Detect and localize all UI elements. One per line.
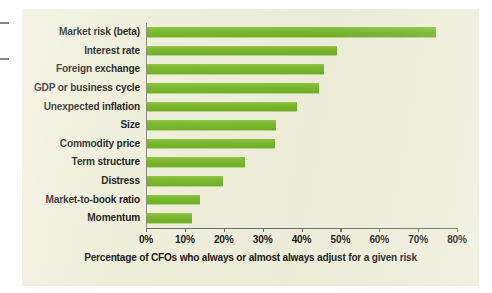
category-label: Market risk (beta): [22, 27, 146, 37]
bar-track: [146, 116, 479, 135]
y-axis-line: [146, 23, 147, 228]
scan-artifact-mark: [0, 22, 9, 24]
x-axis-tick-label: 70%: [408, 234, 428, 245]
bar: [146, 195, 200, 205]
bar-row: Distress: [22, 172, 479, 191]
plot-area: Market risk (beta)Interest rateForeign e…: [22, 9, 479, 286]
bar-track: [146, 153, 479, 172]
bar-rows: Market risk (beta)Interest rateForeign e…: [22, 23, 479, 228]
bar-track: [146, 135, 479, 154]
bar-row: Market-to-book ratio: [22, 190, 479, 209]
x-axis-title: Percentage of CFOs who always or almost …: [22, 252, 479, 263]
bar-track: [146, 42, 479, 61]
category-label: Unexpected inflation: [22, 102, 146, 112]
x-axis-tick-label: 20%: [214, 234, 234, 245]
category-label: Market-to-book ratio: [22, 195, 146, 205]
x-axis-tick: [340, 228, 341, 232]
bar-track: [146, 60, 479, 79]
bar-track: [146, 172, 479, 191]
x-axis-tick: [418, 228, 419, 232]
x-axis-tick-label: 30%: [253, 234, 273, 245]
bar: [146, 28, 436, 38]
bar: [146, 46, 337, 56]
bar-track: [146, 190, 479, 209]
category-label: GDP or business cycle: [22, 83, 146, 93]
category-label: Commodity price: [22, 139, 146, 149]
bar-row: Size: [22, 116, 479, 135]
bar: [146, 121, 276, 131]
bar: [146, 176, 223, 186]
category-label: Term structure: [22, 157, 146, 167]
x-axis-tick: [185, 228, 186, 232]
bar: [146, 65, 324, 75]
bar-track: [146, 97, 479, 116]
chart-figure-panel: Market risk (beta)Interest rateForeign e…: [22, 9, 479, 286]
bar-row: GDP or business cycle: [22, 79, 479, 98]
x-axis-tick: [457, 228, 458, 232]
bar: [146, 213, 192, 223]
scan-artifact-mark: [0, 58, 9, 60]
x-axis-tick: [146, 228, 147, 232]
x-axis-tick-label: 60%: [369, 234, 389, 245]
bar-track: [146, 79, 479, 98]
category-label: Interest rate: [22, 46, 146, 56]
x-axis-tick: [379, 228, 380, 232]
bar-row: Term structure: [22, 153, 479, 172]
bar-track: [146, 209, 479, 228]
category-label: Size: [22, 120, 146, 130]
x-axis-tick: [302, 228, 303, 232]
bar-track: [146, 23, 479, 42]
x-axis-tick: [263, 228, 264, 232]
category-label: Foreign exchange: [22, 64, 146, 74]
bar-row: Market risk (beta): [22, 23, 479, 42]
x-axis-tick-label: 80%: [447, 234, 467, 245]
bar-row: Foreign exchange: [22, 60, 479, 79]
bar-row: Interest rate: [22, 42, 479, 61]
bar: [146, 102, 297, 112]
x-axis-tick-label: 0%: [139, 234, 153, 245]
x-axis-tick-label: 50%: [331, 234, 351, 245]
x-axis-tick-label: 10%: [175, 234, 195, 245]
bar: [146, 83, 319, 93]
x-axis-tick-label: 40%: [292, 234, 312, 245]
category-label: Distress: [22, 176, 146, 186]
bar: [146, 158, 245, 168]
x-axis-tick: [224, 228, 225, 232]
bar-row: Commodity price: [22, 135, 479, 154]
bar: [146, 139, 275, 149]
bar-row: Momentum: [22, 209, 479, 228]
category-label: Momentum: [22, 213, 146, 223]
bar-row: Unexpected inflation: [22, 97, 479, 116]
